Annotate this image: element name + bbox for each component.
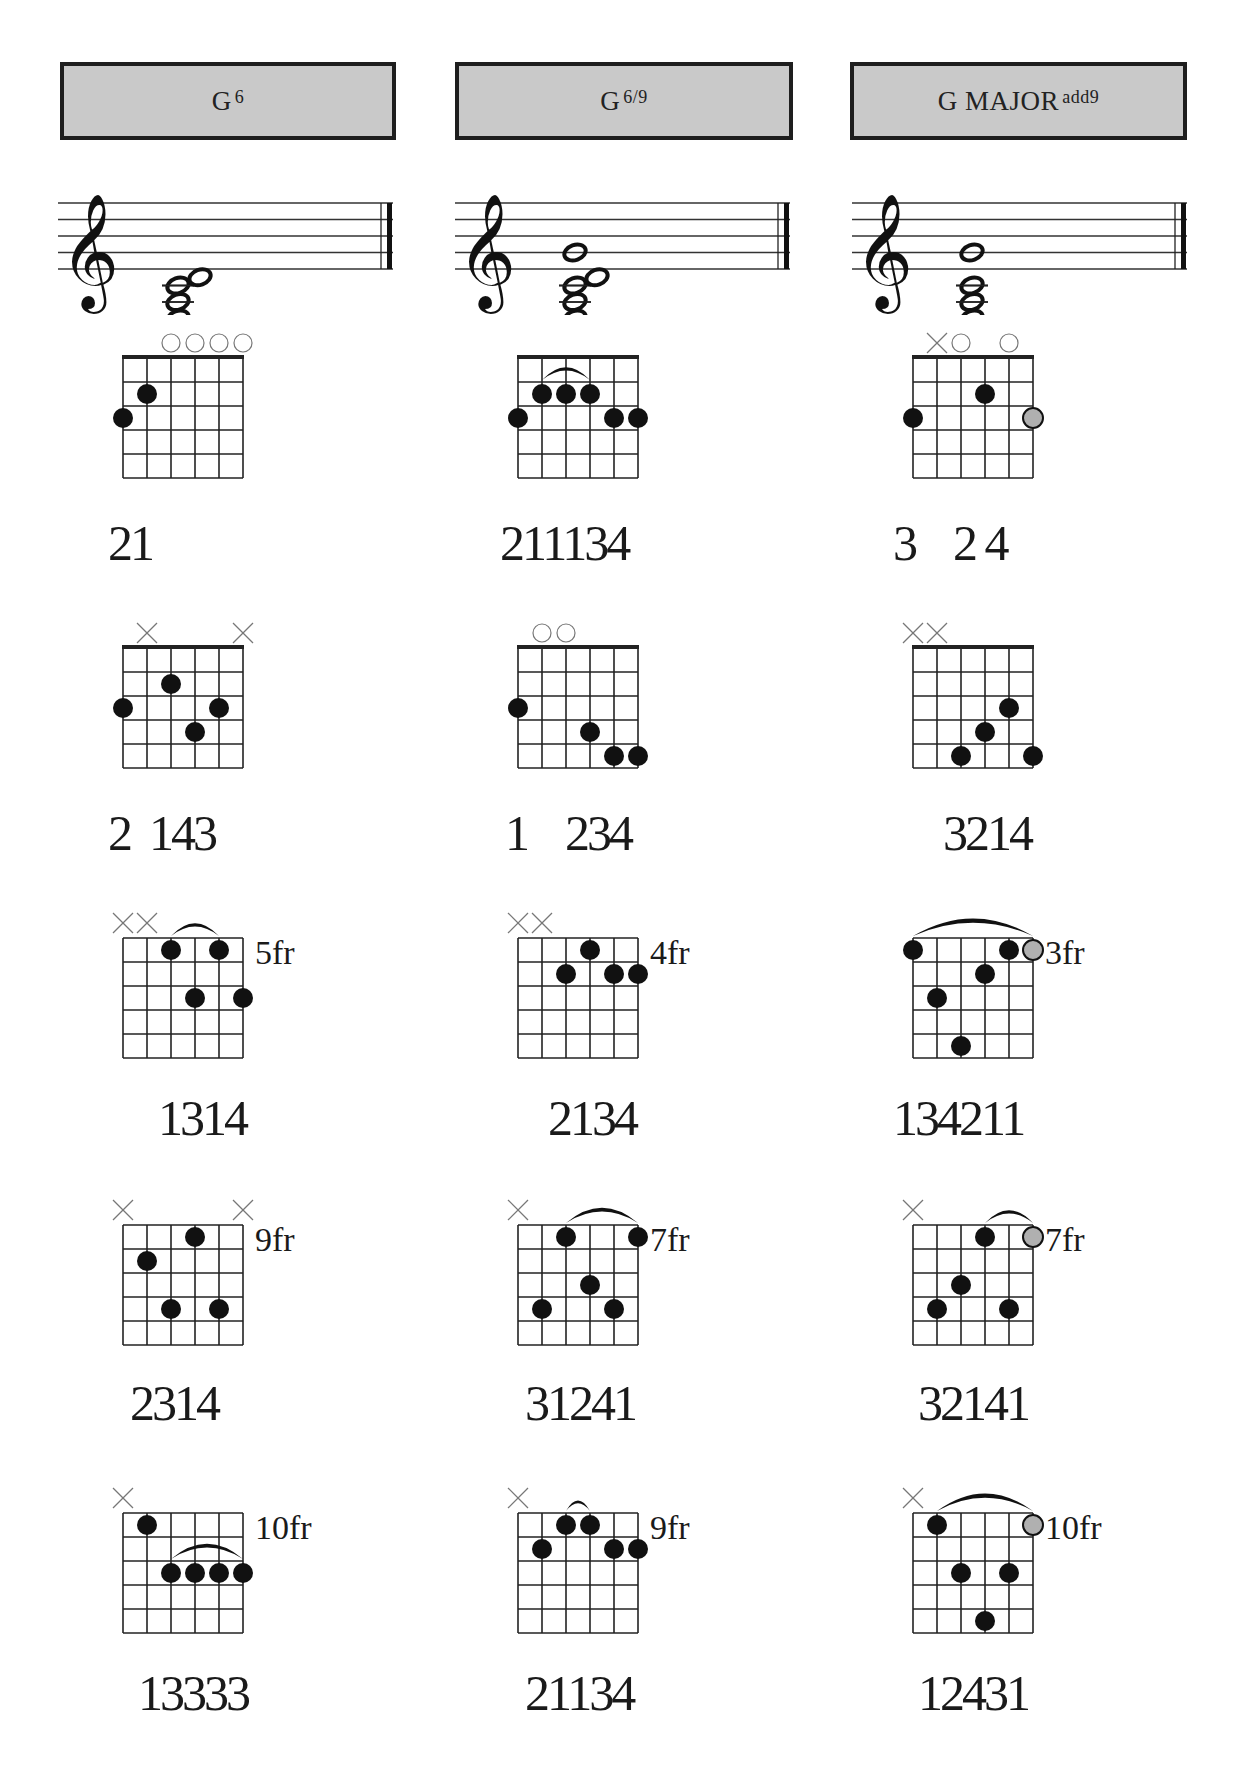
chord-title-g6: G6 <box>60 62 396 140</box>
chord-diagram: 5fr <box>93 893 353 1082</box>
finger-dot <box>233 1563 253 1583</box>
finger-dot <box>628 746 648 766</box>
chord-extension: 6/9 <box>623 87 648 108</box>
finger-dot <box>209 698 229 718</box>
finger-dot <box>604 408 624 428</box>
fingering-numbers: 13333 <box>138 1668 248 1718</box>
finger-dot <box>975 1611 995 1631</box>
barre-arc <box>171 923 219 936</box>
finger-dot <box>161 674 181 694</box>
finger-dot <box>209 940 229 960</box>
open-string-icon <box>952 334 970 352</box>
finger-dot <box>628 964 648 984</box>
fret-position-label: 10fr <box>255 1509 312 1546</box>
finger-dot <box>580 1515 600 1535</box>
optional-note-dot <box>1023 1515 1043 1535</box>
finger-dot <box>556 964 576 984</box>
chord-diagram: 3fr <box>883 893 1143 1082</box>
fingering-numbers: 1 234 <box>505 808 631 858</box>
fingering-numbers: 1314 <box>158 1093 246 1143</box>
finger-dot <box>604 746 624 766</box>
barre-arc <box>913 918 1033 936</box>
finger-dot <box>951 1563 971 1583</box>
chord-diagram <box>93 603 353 792</box>
finger-dot <box>999 698 1019 718</box>
nut <box>912 355 1034 359</box>
fret-position-label: 5fr <box>255 934 295 971</box>
finger-dot <box>508 408 528 428</box>
finger-dot <box>209 1563 229 1583</box>
treble-clef-icon: 𝄞 <box>60 192 119 314</box>
finger-dot <box>113 698 133 718</box>
nut <box>122 645 244 649</box>
fingering-numbers: 2134 <box>548 1093 636 1143</box>
chord-name: G MAJOR <box>938 86 1059 117</box>
fret-position-label: 4fr <box>650 934 690 971</box>
finger-dot <box>975 1227 995 1247</box>
chord-diagram: 10fr <box>883 1468 1143 1657</box>
fret-position-label: 7fr <box>1045 1221 1085 1258</box>
chord-diagram <box>93 313 353 502</box>
finger-dot <box>580 722 600 742</box>
finger-dot <box>927 1515 947 1535</box>
fingering-numbers: 3214 <box>943 808 1031 858</box>
chord-diagram <box>883 313 1143 502</box>
finger-dot <box>999 940 1019 960</box>
whole-note-icon <box>584 266 610 288</box>
chord-diagram: 7fr <box>883 1180 1143 1369</box>
muted-string-icon <box>927 623 947 643</box>
muted-string-icon <box>508 1200 528 1220</box>
muted-string-icon <box>137 623 157 643</box>
nut <box>517 355 639 359</box>
finger-dot <box>185 1563 205 1583</box>
finger-dot <box>185 988 205 1008</box>
chord-diagram: 7fr <box>488 1180 748 1369</box>
muted-string-icon <box>233 623 253 643</box>
chord-diagram <box>883 603 1143 792</box>
finger-dot <box>556 1515 576 1535</box>
chord-title-gmajor-add9: G MAJORadd9 <box>850 62 1187 140</box>
fingering-numbers: 134211 <box>893 1093 1023 1143</box>
finger-dot <box>951 1036 971 1056</box>
open-string-icon <box>1000 334 1018 352</box>
muted-string-icon <box>137 913 157 933</box>
open-string-icon <box>533 624 551 642</box>
nut <box>912 645 1034 649</box>
muted-string-icon <box>903 1488 923 1508</box>
finger-dot <box>508 698 528 718</box>
finger-dot <box>233 988 253 1008</box>
chord-name: G <box>600 86 620 117</box>
fingering-numbers: 2 143 <box>108 808 215 858</box>
open-string-icon <box>186 334 204 352</box>
finger-dot <box>628 408 648 428</box>
nut <box>517 645 639 649</box>
finger-dot <box>161 1299 181 1319</box>
chord-name: G <box>212 86 232 117</box>
finger-dot <box>137 384 157 404</box>
finger-dot <box>999 1299 1019 1319</box>
music-staff-gmajor-add9: 𝄞 <box>852 165 1197 315</box>
chord-diagram: 10fr <box>93 1468 353 1657</box>
fingering-numbers: 32141 <box>918 1378 1028 1428</box>
chord-title-g6-9: G6/9 <box>455 62 793 140</box>
barre-arc <box>566 1501 590 1511</box>
barre-arc <box>985 1210 1033 1223</box>
finger-dot <box>975 722 995 742</box>
optional-note-dot <box>1023 1227 1043 1247</box>
finger-dot <box>604 1539 624 1559</box>
muted-string-icon <box>113 1200 133 1220</box>
finger-dot <box>556 1227 576 1247</box>
chord-extension: add9 <box>1062 87 1099 108</box>
fingering-numbers: 211134 <box>500 518 628 568</box>
optional-note-dot <box>1023 940 1043 960</box>
finger-dot <box>137 1515 157 1535</box>
open-string-icon <box>210 334 228 352</box>
open-string-icon <box>557 624 575 642</box>
finger-dot <box>628 1539 648 1559</box>
open-string-icon <box>234 334 252 352</box>
finger-dot <box>1023 746 1043 766</box>
finger-dot <box>951 1275 971 1295</box>
chord-diagram <box>488 603 748 792</box>
muted-string-icon <box>113 913 133 933</box>
finger-dot <box>113 408 133 428</box>
